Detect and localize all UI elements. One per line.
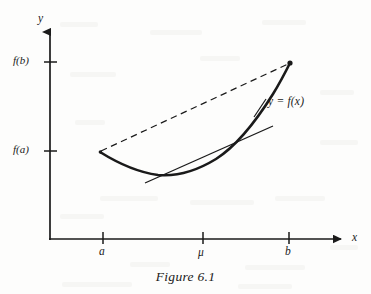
figure-caption: Figure 6.1 <box>0 270 371 284</box>
figure-canvas: y x f(b) f(a) a μ b y = f(x) Figure 6.1 <box>0 0 371 294</box>
y-tick-label-fb: f(b) <box>13 55 29 66</box>
figure-graphic <box>0 0 371 294</box>
x-tick-label-a: a <box>99 246 105 258</box>
function-curve <box>100 63 290 175</box>
x-tick-label-mu: μ <box>198 247 204 259</box>
y-axis-label: y <box>38 13 43 25</box>
x-tick-label-b: b <box>285 246 291 258</box>
y-tick-label-fa: f(a) <box>13 144 29 155</box>
curve-endpoint-a <box>99 150 102 153</box>
curve-label: y = f(x) <box>268 96 304 108</box>
x-axis-label: x <box>352 232 357 244</box>
curve-endpoint-b <box>287 60 292 65</box>
